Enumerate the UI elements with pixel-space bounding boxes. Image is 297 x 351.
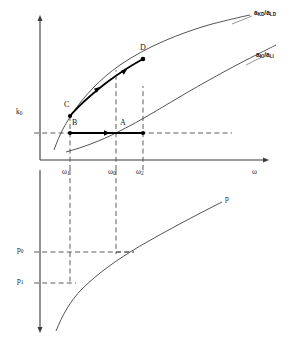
curve-label-p: p [225,195,229,203]
x-axis-label-omega: ω [252,168,257,176]
point-marker-a [141,131,145,135]
arrow-c-to-d [70,59,143,116]
y-axis-tick-k0: k0 [16,108,22,117]
diagram-canvas: aKD/aLD aKI/aLI k0 ω1 ω0 ω2 ω C B A D p0… [0,0,297,351]
curve-label-akd-den: aLD [266,9,276,16]
point-label-b: B [72,119,77,127]
curve-label-akd-num: aKD [254,9,264,16]
point-label-c: C [64,101,69,109]
x-axis-tick-omega0: ω0 [108,168,116,177]
point-label-a: A [120,119,126,127]
x-axis-tick-omega2: ω2 [136,168,144,177]
curve-akd-ald [54,15,250,150]
p-axis-tick-p1: p1 [17,277,23,286]
arrow-b-to-a-head [104,130,110,135]
point-marker-b [68,131,72,135]
x-axis-tick-omega1: ω1 [62,168,70,177]
curve-aki-ali [66,45,276,152]
p-axis-tick-p0: p0 [17,246,23,255]
point-label-d: D [140,44,146,52]
point-marker-d [141,57,146,62]
curve-label-aki-ali: aKI/aLI [256,52,274,60]
curve-p [56,202,222,331]
curve-label-akd-ald: aKD/aLD [254,10,276,18]
curve-label-aki-den: aLI [266,51,274,58]
